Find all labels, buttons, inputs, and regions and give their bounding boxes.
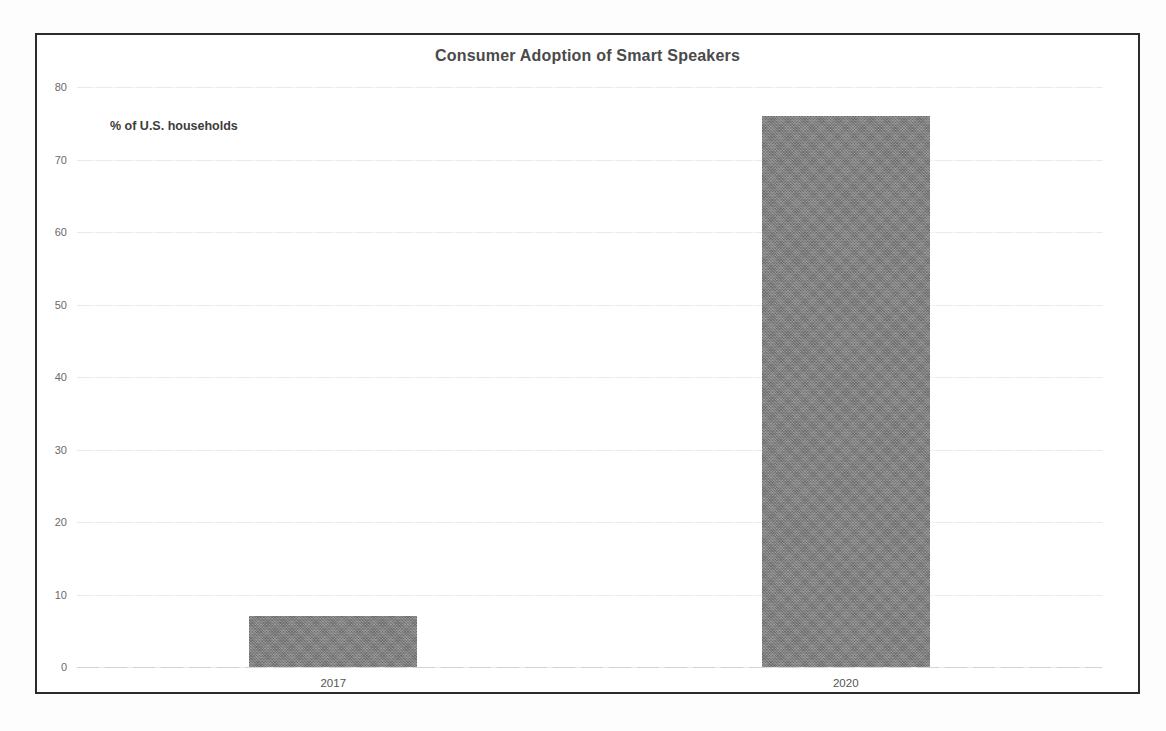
y-axis-tick-label: 80 xyxy=(55,81,67,93)
gridline xyxy=(77,232,1102,233)
gridline xyxy=(77,87,1102,88)
plot-area: % of U.S. households 01020304050607080 2… xyxy=(77,87,1102,667)
gridline xyxy=(77,522,1102,523)
y-axis-tick-label: 20 xyxy=(55,516,67,528)
gridline xyxy=(77,450,1102,451)
x-axis-tick-label: 2017 xyxy=(320,677,346,689)
y-axis-tick-label: 0 xyxy=(61,661,67,673)
y-axis-tick-label: 50 xyxy=(55,299,67,311)
scanned-page-background: Consumer Adoption of Smart Speakers % of… xyxy=(0,0,1166,731)
chart-frame: Consumer Adoption of Smart Speakers % of… xyxy=(35,33,1140,694)
y-axis-tick-label: 60 xyxy=(55,226,67,238)
y-axis-tick-label: 70 xyxy=(55,154,67,166)
gridline xyxy=(77,305,1102,306)
gridline xyxy=(77,160,1102,161)
gridline xyxy=(77,595,1102,596)
y-axis-tick-label: 40 xyxy=(55,371,67,383)
y-axis-tick-label: 10 xyxy=(55,589,67,601)
chart-title: Consumer Adoption of Smart Speakers xyxy=(37,47,1138,65)
y-axis-tick-label: 30 xyxy=(55,444,67,456)
bar-2020 xyxy=(762,116,930,667)
bar-2017 xyxy=(249,616,417,667)
x-axis-tick-label: 2020 xyxy=(833,677,859,689)
gridline xyxy=(77,667,1102,668)
gridline xyxy=(77,377,1102,378)
y-axis-caption: % of U.S. households xyxy=(110,119,238,133)
